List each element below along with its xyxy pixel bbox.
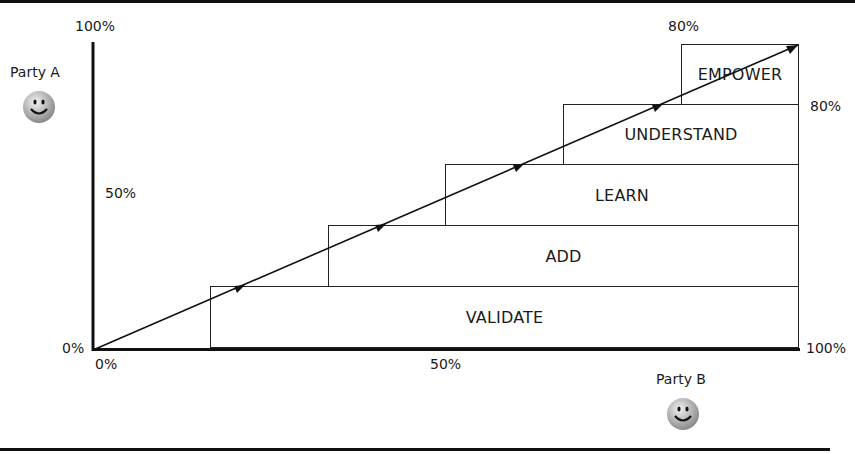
party-b-label: Party B [656,371,706,387]
axes-and-arrow [0,0,855,454]
smiley-icon-party-b [666,397,700,431]
